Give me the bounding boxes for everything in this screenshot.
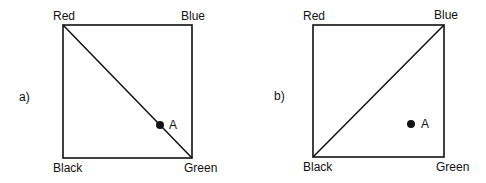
panel-a-corner-blue: Blue bbox=[181, 9, 205, 23]
panel-a-corner-black: Black bbox=[53, 161, 83, 175]
panel-b-corner-black: Black bbox=[303, 160, 333, 174]
panel-a-diagonal-red-green bbox=[63, 25, 192, 158]
diagram-canvas: a) A Red Blue Black Green b) A Red Blue … bbox=[0, 0, 486, 183]
panel-a-point-a bbox=[156, 121, 164, 129]
panel-b-corner-red: Red bbox=[303, 9, 325, 23]
panel-a-corner-red: Red bbox=[53, 9, 75, 23]
panel-b-diagonal-black-blue bbox=[313, 25, 444, 157]
panel-a: a) A Red Blue Black Green bbox=[19, 9, 217, 175]
panel-a-corner-green: Green bbox=[184, 161, 217, 175]
panel-b-label: b) bbox=[274, 89, 285, 103]
panel-a-point-label: A bbox=[169, 118, 177, 132]
panel-b-point-a bbox=[407, 120, 415, 128]
panel-b-point-label: A bbox=[421, 117, 429, 131]
panel-b-corner-green: Green bbox=[436, 160, 469, 174]
panel-a-label: a) bbox=[19, 90, 30, 104]
panel-b-corner-blue: Blue bbox=[434, 8, 458, 22]
panel-b: b) A Red Blue Black Green bbox=[274, 8, 469, 174]
